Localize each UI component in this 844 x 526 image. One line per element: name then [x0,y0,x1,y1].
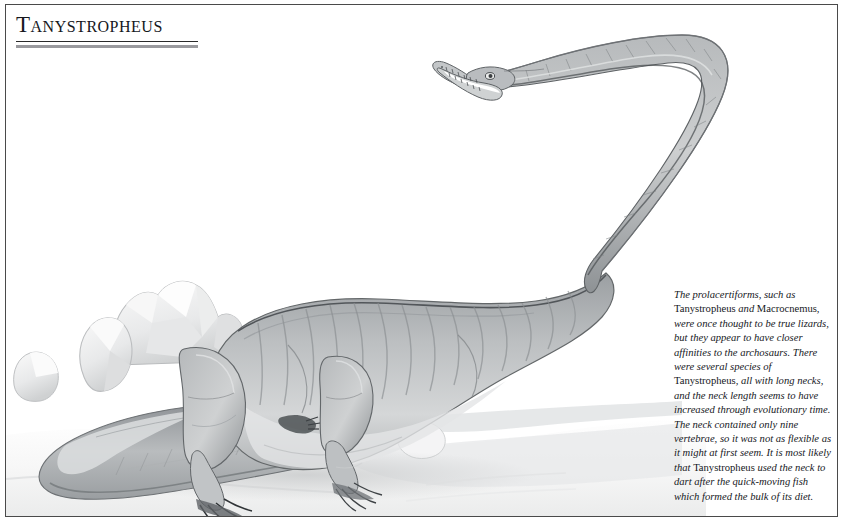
illustration-page: Tanystropheus The prolacertiforms, such … [0,0,844,526]
page-title: Tanystropheus [16,12,198,38]
title-block: Tanystropheus [16,12,198,48]
caption-block: The prolacertiforms, such as Tanystrophe… [674,288,834,504]
title-rule-thick [16,45,198,48]
title-rule-thin [16,41,198,42]
caption-text: The prolacertiforms, such as Tanystrophe… [674,288,834,504]
